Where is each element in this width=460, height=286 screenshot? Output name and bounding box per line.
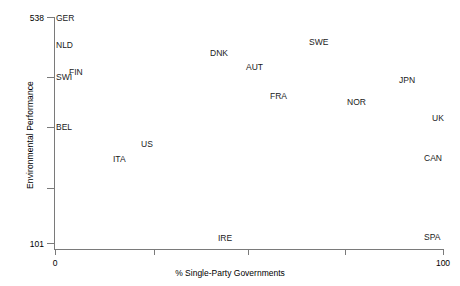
data-point-jpn: JPN bbox=[399, 75, 415, 85]
data-point-spa: SPA bbox=[424, 232, 440, 242]
x-tick-label-100: 100 bbox=[428, 258, 458, 268]
data-point-fin: FIN bbox=[69, 67, 83, 77]
y-tick-2 bbox=[47, 127, 54, 128]
y-tick-3 bbox=[47, 188, 54, 189]
data-point-nor: NOR bbox=[347, 97, 366, 107]
data-point-nld: NLD bbox=[56, 40, 73, 50]
data-point-fra: FRA bbox=[270, 91, 287, 101]
data-point-can: CAN bbox=[424, 153, 442, 163]
x-tick-1 bbox=[154, 249, 155, 255]
data-point-dnk: DNK bbox=[210, 48, 228, 58]
data-point-ger: GER bbox=[56, 13, 74, 23]
x-axis-title: % Single-Party Governments bbox=[0, 268, 460, 278]
data-point-ita: ITA bbox=[113, 154, 126, 164]
x-tick-4 bbox=[443, 249, 444, 255]
data-point-aut: AUT bbox=[246, 62, 263, 72]
y-axis-line bbox=[54, 17, 55, 244]
x-tick-0 bbox=[55, 249, 56, 255]
data-point-bel: BEL bbox=[56, 122, 72, 132]
x-tick-3 bbox=[345, 249, 346, 255]
x-tick-label-0: 0 bbox=[40, 258, 70, 268]
data-point-swe: SWE bbox=[309, 37, 328, 47]
y-axis-title: Environmental Performance bbox=[25, 45, 35, 225]
y-tick-4 bbox=[47, 243, 54, 244]
data-point-us: US bbox=[141, 139, 153, 149]
y-tick-1 bbox=[47, 77, 54, 78]
scatter-plot: Environmental Performance % Single-Party… bbox=[0, 0, 460, 286]
data-point-ire: IRE bbox=[218, 233, 232, 243]
y-tick-label-101: 101 bbox=[14, 239, 44, 249]
data-point-uk: UK bbox=[432, 113, 444, 123]
x-tick-2 bbox=[248, 249, 249, 255]
y-tick-label-538: 538 bbox=[14, 13, 44, 23]
y-tick-0 bbox=[47, 17, 54, 18]
